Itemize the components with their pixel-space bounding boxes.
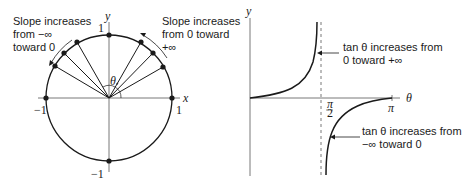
tick-half-pi-den: 2 <box>327 106 333 120</box>
arrow-head-icon <box>317 51 322 56</box>
annotation-upper-line1: tan θ increases from <box>343 41 443 53</box>
tangent-graph: y θ π 2 π tan θ increases from 0 toward … <box>245 4 462 176</box>
annotation-right-line3: +∞ <box>162 41 176 53</box>
annotation-right-line1: Slope increases <box>162 15 241 27</box>
annotation-left-line2: from −∞ <box>13 28 52 40</box>
diagram-canvas: y x θ 1 −1 −1 1 Slope increases from −∞ … <box>0 0 465 186</box>
tick-left: −1 <box>34 103 47 117</box>
tick-top: 1 <box>98 21 104 35</box>
y-axis-label: y <box>245 4 252 18</box>
annotation-lower-line2: −∞ toward 0 <box>362 138 422 150</box>
annotation-lower-line1: tan θ increases from <box>362 125 462 137</box>
annotation-left-line1: Slope increases <box>13 15 92 27</box>
annotation-right-line2: from 0 toward <box>162 28 229 40</box>
annotation-left-line3: toward 0 <box>13 41 55 53</box>
theta-axis-label: θ <box>406 91 412 105</box>
tick-bottom: −1 <box>91 167 104 181</box>
unit-circle-figure: y x θ 1 −1 −1 1 Slope increases from −∞ … <box>13 9 241 181</box>
y-axis-label: y <box>104 9 111 23</box>
tick-pi: π <box>388 101 395 115</box>
tan-branch-upper <box>250 22 317 98</box>
annotation-upper-line2: 0 toward +∞ <box>343 54 403 66</box>
x-axis-label: x <box>182 91 189 105</box>
theta-label: θ <box>110 74 116 88</box>
tick-right: 1 <box>176 103 182 117</box>
